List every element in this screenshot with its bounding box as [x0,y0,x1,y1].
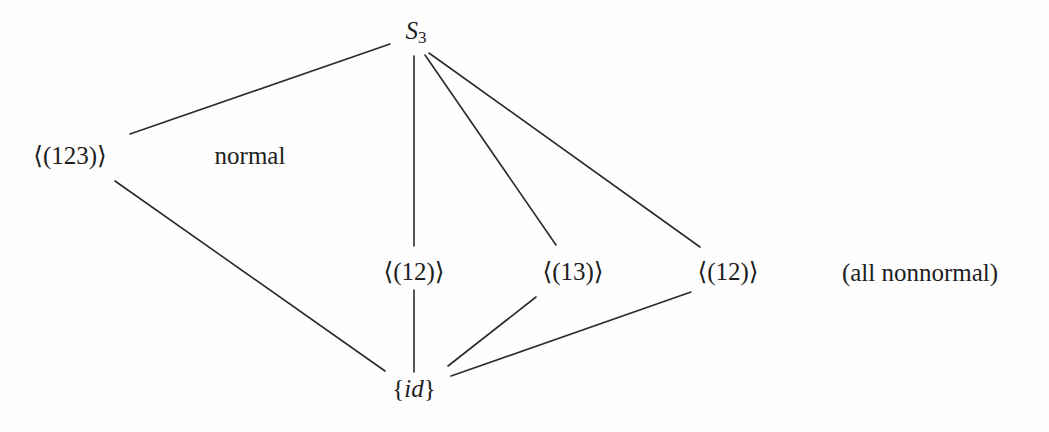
edge-left-to-bottom [115,181,385,371]
node-cyclic-123: ⟨(123)⟩ [33,143,107,168]
node-cyclic-12-right: ⟨(12)⟩ [697,259,758,284]
node-s3-letter: S [406,17,419,44]
lattice-edges [0,0,1049,432]
node-s3: S3 [406,18,427,47]
trivial-open-brace: { [392,375,404,402]
edge-top-to-middle-right [429,53,700,247]
normal-label: normal [215,143,286,168]
edge-top-to-left [130,44,390,134]
trivial-close-brace: } [424,375,436,402]
diagram-canvas: S3 ⟨(123)⟩ ⟨(12)⟩ ⟨(13)⟩ ⟨(12)⟩ {id} nor… [0,0,1049,432]
node-cyclic-12-left: ⟨(12)⟩ [383,259,444,284]
edge-middle-center-to-bottom [448,297,536,366]
node-trivial-identity: {id} [392,376,435,401]
edge-middle-right-to-bottom [451,292,691,376]
node-s3-subscript: 3 [418,28,427,47]
nonnormal-label: (all nonnormal) [842,260,998,285]
edge-top-to-middle-center [425,55,556,245]
node-cyclic-13: ⟨(13)⟩ [542,259,603,284]
trivial-id-symbol: id [404,375,423,402]
